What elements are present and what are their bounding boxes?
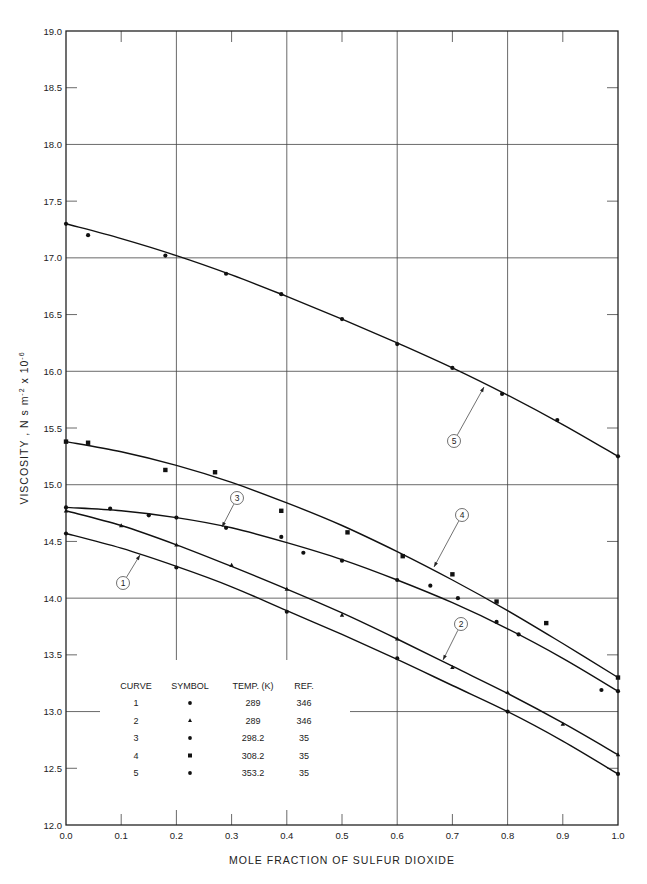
curve-1-point bbox=[616, 772, 620, 776]
legend-symbol-icon bbox=[188, 736, 192, 740]
legend-header: CURVE bbox=[120, 681, 151, 691]
curve-3-point bbox=[279, 535, 283, 539]
curve-3-point bbox=[517, 632, 521, 636]
x-tick-label: 0.7 bbox=[446, 830, 459, 841]
curve-3-point bbox=[494, 620, 498, 624]
legend-curve: 2 bbox=[133, 716, 138, 726]
curve-4-point bbox=[64, 439, 68, 443]
arrowhead-icon bbox=[480, 387, 484, 392]
curve-3-point bbox=[599, 688, 603, 692]
callout-4: 4 bbox=[434, 509, 469, 568]
curve-5-point bbox=[616, 454, 620, 458]
legend-temp: 298.2 bbox=[242, 733, 265, 743]
legend-row: 3298.235 bbox=[133, 733, 309, 743]
curve-4-point bbox=[494, 599, 498, 603]
x-tick-label: 1.0 bbox=[611, 830, 624, 841]
grid-lines bbox=[66, 31, 618, 825]
curve-5-point bbox=[279, 292, 283, 296]
callout-leader-line bbox=[457, 387, 484, 435]
curve-5-point bbox=[395, 342, 399, 346]
legend-row: 2289346 bbox=[133, 716, 311, 726]
arrowhead-icon bbox=[434, 562, 438, 567]
legend-ref: 35 bbox=[299, 751, 309, 761]
legend-row: 4308.235 bbox=[133, 751, 309, 761]
legend-header: SYMBOL bbox=[171, 681, 209, 691]
legend-temp: 289 bbox=[245, 716, 260, 726]
legend-temp: 289 bbox=[245, 698, 260, 708]
curve-4-point bbox=[213, 470, 217, 474]
y-title-mid: x 10 bbox=[18, 360, 30, 388]
curve-3-point bbox=[108, 506, 112, 510]
legend-curve: 1 bbox=[133, 698, 138, 708]
x-tick-label: 0.3 bbox=[225, 830, 238, 841]
curve-3-point bbox=[340, 559, 344, 563]
x-tick-label: 0.5 bbox=[335, 830, 348, 841]
curve-3-point bbox=[456, 596, 460, 600]
curve-5-line bbox=[66, 224, 618, 457]
legend-temp: 353.2 bbox=[242, 768, 265, 778]
callout-5: 5 bbox=[448, 387, 485, 448]
viscosity-chart: 12345 0.00.10.20.30.40.50.60.70.80.91.0 … bbox=[0, 0, 647, 884]
callout-label: 5 bbox=[452, 436, 457, 446]
curve-3-point bbox=[395, 578, 399, 582]
curve-4-point bbox=[86, 441, 90, 445]
callout-label: 4 bbox=[460, 510, 465, 520]
y-tick-label: 18.0 bbox=[44, 139, 63, 150]
y-tick-label: 17.0 bbox=[44, 252, 63, 263]
curves bbox=[66, 224, 618, 774]
plot-frame bbox=[66, 31, 618, 825]
curve-4-point bbox=[163, 468, 167, 472]
x-tick-label: 0.4 bbox=[280, 830, 293, 841]
curve-3-point bbox=[174, 516, 178, 520]
curve-5-point bbox=[86, 233, 90, 237]
legend-symbol-icon bbox=[188, 718, 192, 722]
curve-callouts: 12345 bbox=[117, 387, 485, 660]
y-tick-label: 13.0 bbox=[44, 706, 63, 717]
curve-4-point bbox=[450, 572, 454, 576]
callout-3: 3 bbox=[222, 492, 244, 528]
curve-4-point bbox=[616, 675, 620, 679]
curve-1-line bbox=[66, 534, 618, 775]
legend-ref: 35 bbox=[299, 768, 309, 778]
callout-leader-line bbox=[434, 521, 459, 567]
x-tick-label: 0.6 bbox=[391, 830, 404, 841]
y-tick-label: 16.0 bbox=[44, 366, 63, 377]
x-tick-labels: 0.00.10.20.30.40.50.60.70.80.91.0 bbox=[59, 830, 624, 841]
callout-label: 2 bbox=[459, 619, 464, 629]
curve-3-point bbox=[301, 551, 305, 555]
x-tick-label: 0.0 bbox=[59, 830, 72, 841]
legend-table: CURVESYMBOLTEMP. (K)REF.1289346228934632… bbox=[120, 681, 313, 778]
y-tick-label: 17.5 bbox=[44, 196, 63, 207]
curve-5-point bbox=[450, 366, 454, 370]
x-tick-label: 0.1 bbox=[115, 830, 128, 841]
curve-3-point bbox=[616, 689, 620, 693]
y-tick-label: 14.0 bbox=[44, 593, 63, 604]
y-tick-label: 19.0 bbox=[44, 26, 63, 37]
legend-ref: 346 bbox=[296, 716, 311, 726]
curve-1-point bbox=[64, 531, 68, 535]
curve-5-point bbox=[163, 253, 167, 257]
x-tick-label: 0.2 bbox=[170, 830, 183, 841]
legend-curve: 3 bbox=[133, 733, 138, 743]
y-title-exp2: -6 bbox=[18, 351, 25, 359]
y-tick-labels: 12.012.513.013.514.014.515.015.516.016.5… bbox=[44, 26, 63, 831]
curve-5-point bbox=[224, 272, 228, 276]
callout-label: 3 bbox=[235, 493, 240, 503]
legend-header: TEMP. (K) bbox=[233, 681, 274, 691]
callout-1: 1 bbox=[117, 555, 141, 590]
x-axis-title: MOLE FRACTION OF SULFUR DIOXIDE bbox=[229, 854, 455, 866]
callout-label: 1 bbox=[121, 578, 126, 588]
y-title-main: VISCOSITY , N s m bbox=[18, 396, 30, 505]
legend-ref: 35 bbox=[299, 733, 309, 743]
curve-3-point bbox=[147, 513, 151, 517]
legend-ref: 346 bbox=[296, 698, 311, 708]
curve-1-point bbox=[174, 565, 178, 569]
y-tick-label: 18.5 bbox=[44, 82, 63, 93]
curve-3-point bbox=[64, 505, 68, 509]
x-tick-label: 0.8 bbox=[501, 830, 514, 841]
legend-symbol-icon bbox=[188, 771, 192, 775]
legend-symbol-icon bbox=[188, 701, 192, 705]
y-tick-label: 15.0 bbox=[44, 479, 63, 490]
arrowhead-icon bbox=[136, 555, 140, 560]
curve-4-point bbox=[401, 554, 405, 558]
